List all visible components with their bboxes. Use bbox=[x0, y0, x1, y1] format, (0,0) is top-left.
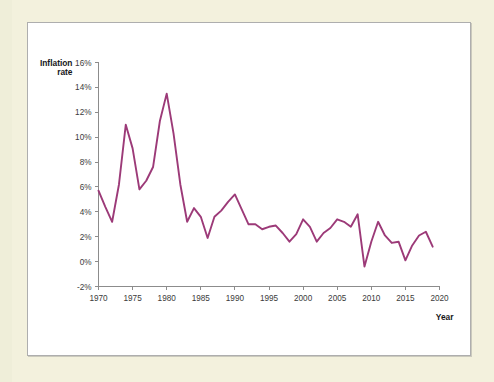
y-axis-tick-label: 12% bbox=[75, 108, 91, 117]
x-axis-tick-label: 2015 bbox=[396, 294, 415, 303]
y-axis-tick-label: 14% bbox=[75, 83, 91, 92]
y-axis-tick-label: -2% bbox=[77, 283, 92, 292]
x-axis-tick-label: 2005 bbox=[328, 294, 347, 303]
y-axis-tick-label: 8% bbox=[80, 158, 92, 167]
y-axis-tick-label: 4% bbox=[80, 208, 92, 217]
x-axis-tick-label: 2020 bbox=[430, 294, 449, 303]
y-axis-title-line2: rate bbox=[57, 67, 73, 77]
inflation-rate-series-line bbox=[99, 94, 433, 267]
x-axis-tick-label: 2000 bbox=[294, 294, 313, 303]
x-axis-tick-label: 2010 bbox=[362, 294, 381, 303]
x-axis-title: Year bbox=[436, 312, 454, 322]
y-axis-tick-label: 16% bbox=[75, 59, 91, 68]
x-axis-tick-label: 1985 bbox=[192, 294, 211, 303]
x-axis-tick-label: 1980 bbox=[158, 294, 177, 303]
x-axis-tick-group: 1970197519801985199019952000200520102015… bbox=[89, 287, 449, 303]
x-axis-tick-label: 1975 bbox=[123, 294, 142, 303]
y-axis-tick-label: 0% bbox=[80, 258, 92, 267]
page-backdrop: -2%0%2%4%6%8%10%12%14%16% 19701975198019… bbox=[0, 0, 494, 382]
chart-panel: -2%0%2%4%6%8%10%12%14%16% 19701975198019… bbox=[27, 22, 471, 356]
x-axis-tick-label: 1970 bbox=[89, 294, 108, 303]
y-axis-title-line1: Inflation bbox=[40, 58, 73, 68]
y-axis-tick-group: -2%0%2%4%6%8%10%12%14%16% bbox=[75, 59, 98, 292]
x-axis-tick-label: 1990 bbox=[226, 294, 245, 303]
y-axis-tick-label: 10% bbox=[75, 133, 91, 142]
y-axis-tick-label: 6% bbox=[80, 183, 92, 192]
y-axis-tick-label: 2% bbox=[80, 233, 92, 242]
inflation-line-chart: -2%0%2%4%6%8%10%12%14%16% 19701975198019… bbox=[28, 23, 470, 355]
x-axis-tick-label: 1995 bbox=[260, 294, 279, 303]
